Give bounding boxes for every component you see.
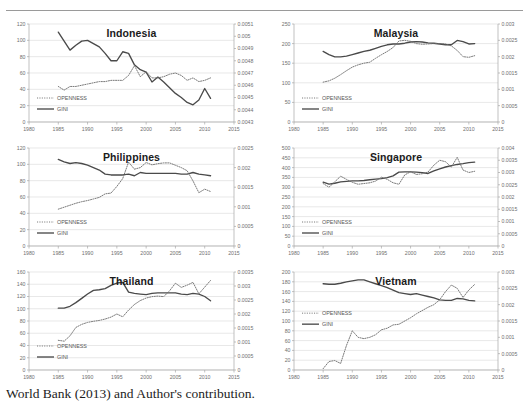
svg-text:100: 100 [17,306,26,312]
svg-text:0.001: 0.001 [502,334,515,340]
chart-panel-vietnam: 02040608010012014016018020000.00050.0010… [265,264,529,388]
svg-text:1995: 1995 [376,250,388,256]
legend-label-gini: GINI [322,230,333,236]
svg-text:0.001: 0.001 [502,218,515,224]
svg-text:2000: 2000 [140,250,152,256]
svg-text:1990: 1990 [82,250,94,256]
svg-text:160: 160 [282,289,291,295]
series-line-openness-malaysia [323,40,475,82]
legend-vietnam: OPENNESSGINI [302,310,352,327]
svg-text:0.0015: 0.0015 [502,318,518,324]
legend-philippines: OPENNESSGINI [37,219,87,236]
svg-text:250: 250 [282,194,291,200]
svg-text:1990: 1990 [347,126,359,132]
svg-text:1980: 1980 [23,374,35,380]
svg-text:0.0015: 0.0015 [502,70,518,76]
svg-text:80: 80 [285,328,291,334]
svg-text:1985: 1985 [53,250,65,256]
svg-text:0.0025: 0.0025 [502,285,518,291]
svg-text:100: 100 [282,80,291,86]
chart-panel-philippines: 02040608010012000.00050.0010.00150.0020.… [0,140,265,264]
legend-malaysia: OPENNESSGINI [302,95,352,112]
svg-text:0.0035: 0.0035 [238,269,254,275]
series-line-gini-malaysia [323,40,475,56]
chart-panel-thailand: 02040608010012014016000.00050.0010.00150… [0,264,265,388]
svg-text:0.0005: 0.0005 [502,103,518,109]
svg-text:160: 160 [17,269,26,275]
series-line-gini-indonesia [58,32,210,105]
svg-text:2000: 2000 [405,250,417,256]
series-line-openness-philippines [58,162,210,209]
svg-text:20: 20 [20,227,26,233]
svg-text:2000: 2000 [405,126,417,132]
legend-label-openness: OPENNESS [57,219,87,225]
svg-text:0: 0 [502,367,505,373]
svg-text:2005: 2005 [170,374,182,380]
svg-text:100: 100 [17,37,26,43]
svg-text:2015: 2015 [228,374,240,380]
svg-text:0.0047: 0.0047 [238,70,254,76]
svg-text:0.003: 0.003 [238,283,251,289]
y-axis-right-ticks: 0.00430.00440.00450.00460.00470.00480.00… [234,21,253,125]
svg-text:0: 0 [288,119,291,125]
svg-text:80: 80 [20,54,26,60]
svg-text:40: 40 [20,342,26,348]
svg-text:1980: 1980 [288,374,300,380]
y-axis-right-ticks: 00.00050.0010.00150.0020.00250.003 [498,269,517,373]
svg-text:120: 120 [282,308,291,314]
svg-text:120: 120 [17,145,26,151]
svg-text:0.0048: 0.0048 [238,58,254,64]
svg-text:20: 20 [285,357,291,363]
svg-text:1980: 1980 [23,126,35,132]
y-axis-left-ticks: 050100150200250 [282,21,294,125]
x-axis-ticks: 19801985199019952000200520102015 [288,246,504,256]
svg-text:40: 40 [285,347,291,353]
y-axis-right-ticks: 00.00050.0010.00150.0020.0025 [234,145,253,249]
svg-text:2010: 2010 [199,126,211,132]
figure-page: 0204060801001200.00430.00440.00450.00460… [0,0,529,407]
svg-text:2005: 2005 [170,250,182,256]
svg-text:40: 40 [20,86,26,92]
svg-text:50: 50 [285,233,291,239]
svg-text:0.0025: 0.0025 [502,37,518,43]
panel-title-vietnam: Vietnam [375,275,416,287]
chart-panel-malaysia: 05010015020025000.00050.0010.00150.0020.… [265,16,529,140]
svg-text:2015: 2015 [492,374,504,380]
svg-text:1980: 1980 [23,250,35,256]
svg-text:350: 350 [282,174,291,180]
svg-text:0.002: 0.002 [502,302,515,308]
legend-label-gini: GINI [322,321,333,327]
svg-text:20: 20 [20,103,26,109]
svg-text:140: 140 [17,281,26,287]
svg-text:300: 300 [282,184,291,190]
legend-label-gini: GINI [57,354,68,360]
svg-text:2000: 2000 [140,374,152,380]
svg-text:100: 100 [282,223,291,229]
svg-text:20: 20 [20,355,26,361]
svg-text:1980: 1980 [288,250,300,256]
svg-text:1995: 1995 [111,126,123,132]
svg-text:1985: 1985 [317,250,329,256]
y-axis-right-ticks: 00.00050.0010.00150.0020.00250.0030.0035 [234,269,253,373]
series-line-openness-indonesia [58,66,210,91]
svg-text:450: 450 [282,155,291,161]
svg-text:0.001: 0.001 [238,339,251,345]
legend-singapore: OPENNESSGINI [302,219,352,236]
svg-text:200: 200 [282,204,291,210]
svg-text:1985: 1985 [317,126,329,132]
y-axis-right-ticks: 00.00050.0010.00150.0020.00250.003 [498,21,517,125]
svg-text:1985: 1985 [317,374,329,380]
svg-text:50: 50 [285,99,291,105]
svg-text:2000: 2000 [140,126,152,132]
svg-text:0.004: 0.004 [502,145,515,151]
svg-text:2005: 2005 [434,250,446,256]
svg-text:0.0005: 0.0005 [502,351,518,357]
svg-text:1995: 1995 [111,374,123,380]
chart-panel-indonesia: 0204060801001200.00430.00440.00450.00460… [0,16,265,140]
svg-text:150: 150 [282,60,291,66]
svg-text:0.002: 0.002 [502,194,515,200]
svg-text:0.0015: 0.0015 [238,325,254,331]
panel-title-malaysia: Malaysia [374,27,419,39]
svg-text:0.003: 0.003 [502,269,515,275]
legend-label-openness: OPENNESS [322,310,352,316]
